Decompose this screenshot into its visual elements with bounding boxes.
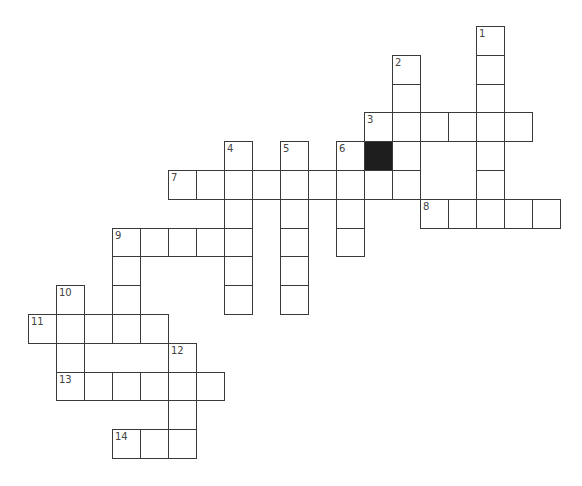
crossword-cell[interactable] <box>112 314 141 344</box>
clue-number: 11 <box>31 316 44 327</box>
crossword-cell[interactable] <box>476 84 505 113</box>
crossword-cell[interactable] <box>280 170 309 200</box>
clue-number: 9 <box>115 230 121 241</box>
crossword-cell[interactable] <box>392 141 421 171</box>
crossword-cell[interactable] <box>252 170 281 200</box>
crossword-cell[interactable] <box>280 285 309 315</box>
crossword-cell[interactable] <box>168 429 197 459</box>
crossword-cell[interactable] <box>196 228 225 257</box>
black-cell <box>364 141 393 171</box>
crossword-cell[interactable] <box>84 372 113 401</box>
crossword-cell[interactable] <box>196 372 225 401</box>
crossword-cell[interactable]: 7 <box>168 170 197 200</box>
crossword-cell[interactable] <box>112 372 141 401</box>
clue-number: 7 <box>171 172 177 183</box>
crossword-cell[interactable]: 6 <box>336 141 365 171</box>
crossword-cell[interactable] <box>112 285 141 315</box>
clue-number: 13 <box>59 374 72 385</box>
crossword-cell[interactable] <box>224 228 253 257</box>
clue-number: 10 <box>59 287 72 298</box>
crossword-cell[interactable]: 9 <box>112 228 141 257</box>
crossword-cell[interactable]: 3 <box>364 112 393 142</box>
clue-number: 4 <box>227 143 233 154</box>
crossword-cell[interactable]: 4 <box>224 141 253 171</box>
crossword-cell[interactable] <box>196 170 225 200</box>
crossword-cell[interactable]: 11 <box>28 314 57 344</box>
crossword-cell[interactable] <box>140 314 169 344</box>
crossword-cell[interactable]: 8 <box>420 199 449 229</box>
crossword-cell[interactable] <box>224 170 253 200</box>
clue-number: 1 <box>479 28 485 39</box>
crossword-cell[interactable] <box>168 400 197 430</box>
crossword-cell[interactable] <box>140 228 169 257</box>
crossword-cell[interactable] <box>280 199 309 229</box>
crossword-cell[interactable] <box>140 372 169 401</box>
crossword-cell[interactable] <box>84 314 113 344</box>
crossword-cell[interactable] <box>336 228 365 257</box>
crossword-cell[interactable]: 10 <box>56 285 85 315</box>
crossword-cell[interactable] <box>504 112 533 142</box>
crossword-cell[interactable] <box>336 170 365 200</box>
crossword-cell[interactable] <box>476 141 505 171</box>
crossword-cell[interactable] <box>420 112 449 142</box>
crossword-cell[interactable] <box>364 170 393 200</box>
crossword-cell[interactable] <box>224 285 253 315</box>
clue-number: 8 <box>423 201 429 212</box>
crossword-cell[interactable] <box>336 199 365 229</box>
clue-number: 14 <box>115 431 128 442</box>
crossword-cell[interactable] <box>224 256 253 286</box>
clue-number: 3 <box>367 114 373 125</box>
crossword-cell[interactable]: 13 <box>56 372 85 401</box>
crossword-cell[interactable] <box>308 170 337 200</box>
crossword-cell[interactable] <box>392 112 421 142</box>
crossword-cell[interactable] <box>392 170 421 200</box>
clue-number: 12 <box>171 345 184 356</box>
crossword-cell[interactable] <box>532 199 561 229</box>
crossword-cell[interactable] <box>504 199 533 229</box>
crossword-cell[interactable] <box>280 256 309 286</box>
crossword-cell[interactable] <box>224 199 253 229</box>
clue-number: 5 <box>283 143 289 154</box>
crossword-cell[interactable] <box>448 199 477 229</box>
crossword-grid: 1234567891013111214 <box>0 0 582 486</box>
crossword-cell[interactable] <box>56 343 85 373</box>
crossword-cell[interactable]: 5 <box>280 141 309 171</box>
crossword-cell[interactable] <box>112 256 141 286</box>
crossword-cell[interactable] <box>168 372 197 401</box>
crossword-cell[interactable] <box>168 228 197 257</box>
crossword-cell[interactable]: 1 <box>476 26 505 56</box>
clue-number: 2 <box>395 57 401 68</box>
crossword-cell[interactable]: 12 <box>168 343 197 373</box>
crossword-cell[interactable] <box>476 55 505 85</box>
crossword-cell[interactable] <box>56 314 85 344</box>
crossword-cell[interactable] <box>476 170 505 200</box>
clue-number: 6 <box>339 143 345 154</box>
crossword-cell[interactable]: 14 <box>112 429 141 459</box>
crossword-cell[interactable] <box>448 112 477 142</box>
crossword-cell[interactable] <box>392 84 421 113</box>
crossword-cell[interactable] <box>476 112 505 142</box>
crossword-cell[interactable] <box>140 429 169 459</box>
crossword-cell[interactable] <box>476 199 505 229</box>
crossword-cell[interactable]: 2 <box>392 55 421 85</box>
crossword-cell[interactable] <box>280 228 309 257</box>
